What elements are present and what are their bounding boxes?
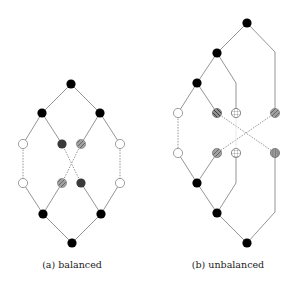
node-light-slash-icon [57,178,66,187]
edge-solid [23,183,43,214]
edge-solid [100,113,120,144]
node-hatch-backslash-icon [212,108,221,117]
node-black-icon [242,18,251,27]
node-hatch-slash-icon [270,108,279,117]
node-grid-icon [231,148,240,157]
edge-solid [23,113,42,144]
node-dark-icon [57,139,66,148]
edge-solid [178,83,197,113]
caption-balanced: (a) balanced [42,259,102,270]
node-black-icon [66,79,75,88]
node-light-slash-icon [76,139,85,148]
edge-solid [101,183,120,214]
nodes-layer [18,18,279,247]
node-open-icon [115,139,124,148]
edge-solid [81,113,100,144]
edge-solid [217,153,236,213]
edge-solid [217,213,247,243]
node-black-icon [96,209,105,218]
node-open-dot-icon [173,148,182,157]
node-grid-icon [231,108,240,117]
caption-unbalanced: (b) unbalanced [192,259,264,270]
node-black-icon [212,48,221,57]
node-black-icon [67,238,76,247]
node-open-dot-icon [18,178,27,187]
node-black-icon [212,208,221,217]
node-black-icon [242,238,251,247]
lattice-figure [0,0,295,297]
edge-solid [197,183,217,213]
edge-solid [247,23,275,113]
edge-solid [178,153,197,183]
edge-solid [197,153,217,183]
edge-solid [42,113,62,144]
node-open-icon [173,108,182,117]
edge-solid [72,214,101,243]
node-open-dot-icon [115,178,124,187]
edge-solid [43,183,62,214]
node-black-icon [192,178,201,187]
node-hatch-vertical-icon [270,148,279,157]
node-black-icon [95,108,104,117]
edge-solid [217,53,236,113]
edge-solid [81,183,101,214]
node-black-icon [38,209,47,218]
edge-solid [217,23,247,53]
edge-solid [197,83,217,113]
node-black-icon [37,108,46,117]
node-hatch-slash-icon [212,148,221,157]
edges-layer [23,23,275,243]
node-black-icon [192,78,201,87]
edge-solid [247,153,275,243]
edge-solid [42,84,71,113]
edge-solid [43,214,72,243]
node-dark-icon [76,178,85,187]
edge-solid [197,53,217,83]
edge-solid [71,84,100,113]
node-open-icon [18,139,27,148]
